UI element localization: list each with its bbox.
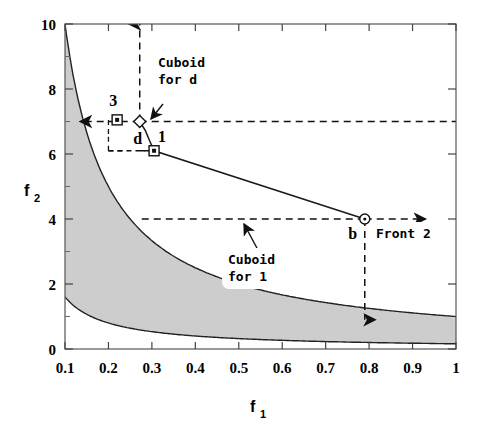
plot-area <box>65 24 456 349</box>
x-tick-label: 0.9 <box>403 360 422 376</box>
cuboid-1-label-line2: for 1 <box>228 269 267 284</box>
front-2-label: Front 2 <box>376 226 431 241</box>
cuboid-d-label-line2: for d <box>158 72 197 87</box>
y-tick-label: 2 <box>49 277 57 293</box>
x-axis-title: f 1 <box>250 398 266 420</box>
pareto-front-chart: 3d1b 0.10.20.30.40.50.60.70.80.910246810… <box>0 0 482 432</box>
y-tick-label: 4 <box>49 212 57 228</box>
cuboid-1-label-line1: Cuboid <box>228 252 275 267</box>
x-tick-label: 0.8 <box>360 360 379 376</box>
x-tick-label: 0.1 <box>56 360 75 376</box>
x-axis-title-base: f <box>250 398 256 415</box>
marker-label-3: 3 <box>109 92 117 109</box>
marker-core-b <box>363 217 366 220</box>
y-tick-label: 10 <box>41 17 56 33</box>
y-axis-title: f 2 <box>24 182 40 204</box>
x-tick-label: 0.6 <box>273 360 292 376</box>
y-tick-label: 6 <box>49 147 57 163</box>
y-tick-label: 0 <box>49 342 57 358</box>
x-axis-title-sub: 1 <box>260 408 266 420</box>
marker-label-b: b <box>348 225 357 242</box>
x-tick-label: 0.4 <box>186 360 205 376</box>
x-tick-label: 0.3 <box>143 360 162 376</box>
chart-figure: 3d1b 0.10.20.30.40.50.60.70.80.910246810… <box>0 0 482 432</box>
cuboid-d-label-line1: Cuboid <box>158 55 205 70</box>
x-tick-label: 0.7 <box>316 360 335 376</box>
y-tick-label: 8 <box>49 82 57 98</box>
marker-label-d: d <box>133 130 142 147</box>
x-tick-label: 0.2 <box>99 360 118 376</box>
marker-core-1 <box>152 149 156 153</box>
x-tick-label: 0.5 <box>229 360 248 376</box>
y-axis-title-sub: 2 <box>34 192 40 204</box>
y-axis-title-base: f <box>24 182 30 199</box>
marker-core-3 <box>115 118 119 122</box>
x-tick-label: 1 <box>452 360 460 376</box>
annotation-front-2: Front 2 <box>371 222 451 244</box>
marker-label-1: 1 <box>158 128 166 145</box>
